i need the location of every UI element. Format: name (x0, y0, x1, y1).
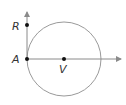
label-r: R (12, 20, 20, 33)
label-v: V (59, 63, 68, 76)
geometry-diagram: R A V (0, 0, 126, 105)
point-r (25, 23, 29, 27)
point-a (25, 57, 29, 61)
label-a: A (11, 53, 20, 66)
point-v (62, 57, 66, 61)
